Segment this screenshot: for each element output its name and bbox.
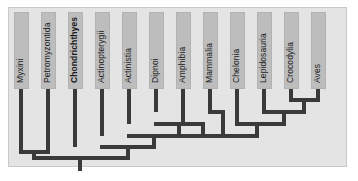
taxon-label-mammalia: Mammalia bbox=[205, 43, 214, 83]
taxon-label-actinopterygii: Actinopterygii bbox=[97, 31, 106, 83]
cladogram-figure: Myxini Petromyzontida Chondrichthyes Act… bbox=[0, 0, 358, 181]
taxon-label-petromyzontida: Petromyzontida bbox=[43, 23, 52, 83]
taxon-label-lepidosauria: Lepidosauria bbox=[259, 33, 268, 83]
taxon-label-actinistia: Actinistia bbox=[124, 48, 133, 83]
taxon-label-crocodylia: Crocodylia bbox=[286, 42, 295, 83]
taxon-label-chondrichthyes: Chondrichthyes bbox=[70, 17, 79, 83]
taxon-label-chelonia: Chelonia bbox=[232, 49, 241, 83]
taxon-label-dipnoi: Dipnoi bbox=[151, 58, 160, 83]
taxon-label-myxini: Myxini bbox=[16, 58, 25, 83]
taxon-label-aves: Aves bbox=[313, 64, 322, 83]
taxon-label-amphibia: Amphibia bbox=[178, 47, 187, 83]
